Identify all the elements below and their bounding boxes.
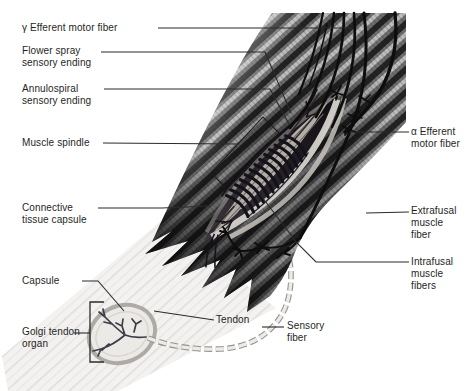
label-tendon: Tendon bbox=[216, 314, 249, 326]
label-annulospiral-sensory-ending: Annulospiral sensory ending bbox=[22, 83, 91, 107]
label-golgi-tendon-organ: Golgi tendon organ bbox=[22, 326, 80, 350]
label-gamma-efferent-motor-fiber: γ Efferent motor fiber bbox=[22, 22, 117, 34]
label-extrafusal-muscle-fiber: Extrafusal muscle fiber bbox=[411, 205, 456, 241]
label-alpha-efferent-motor-fiber: α Efferent motor fiber bbox=[411, 126, 460, 150]
leader-extrafusal bbox=[366, 212, 409, 213]
figure-muscle-spindle-diagram: γ Efferent motor fiber Flower spray sens… bbox=[0, 0, 475, 391]
label-capsule: Capsule bbox=[22, 275, 59, 287]
label-muscle-spindle: Muscle spindle bbox=[22, 137, 90, 149]
label-intrafusal-muscle-fibers: Intrafusal muscle fibers bbox=[411, 256, 453, 292]
label-connective-tissue-capsule: Connective tissue capsule bbox=[22, 202, 87, 226]
label-flower-spray-sensory-ending: Flower spray sensory ending bbox=[22, 45, 91, 69]
label-sensory-fiber: Sensory fiber bbox=[287, 320, 324, 344]
